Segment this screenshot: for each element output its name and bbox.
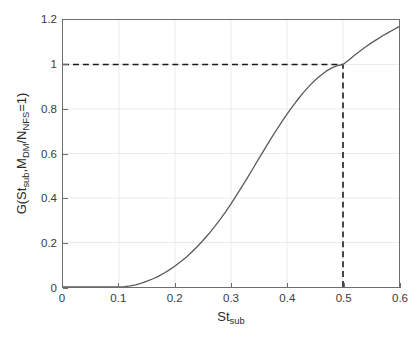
chart-canvas (63, 20, 399, 287)
x-tick-mark (344, 283, 345, 288)
x-tick-label: 0.5 (336, 292, 352, 304)
x-tick-mark (287, 283, 288, 288)
x-tick-mark (118, 283, 119, 288)
x-tick-label: 0.4 (279, 292, 295, 304)
y-tick-label: 0.4 (41, 192, 57, 204)
y-tick-mark (63, 288, 68, 289)
y-tick-label: 0.6 (41, 148, 57, 160)
y-tick-label: 0 (51, 282, 57, 294)
x-tick-mark (400, 283, 401, 288)
y-tick-mark (63, 64, 68, 65)
guide-lines (63, 65, 343, 288)
x-tick-mark (175, 283, 176, 288)
x-tick-label: 0.3 (223, 292, 239, 304)
y-tick-mark (63, 243, 68, 244)
x-tick-mark (231, 283, 232, 288)
y-tick-label: 1 (51, 58, 57, 70)
x-tick-label: 0.6 (392, 292, 408, 304)
y-tick-label: 0.2 (41, 237, 57, 249)
y-tick-mark (63, 19, 68, 20)
x-tick-label: 0 (59, 292, 65, 304)
y-tick-mark (63, 154, 68, 155)
y-tick-mark (63, 198, 68, 199)
y-tick-label: 1.2 (41, 13, 57, 25)
y-axis-title-text: G(Stsub,MDM/NNFS=1) (14, 93, 29, 215)
x-tick-label: 0.2 (167, 292, 183, 304)
x-tick-label: 0.1 (110, 292, 126, 304)
chart-figure: 00.10.20.30.40.50.6 00.20.40.60.811.2 St… (0, 0, 420, 339)
plot-area (62, 19, 400, 288)
x-axis-title: Stsub (62, 309, 400, 326)
x-axis-title-base: St (217, 309, 229, 324)
y-tick-label: 0.8 (41, 103, 57, 115)
y-tick-mark (63, 109, 68, 110)
y-axis-title: G(Stsub,MDM/NNFS=1) (14, 19, 32, 288)
x-axis-title-subscript: sub (230, 316, 245, 326)
